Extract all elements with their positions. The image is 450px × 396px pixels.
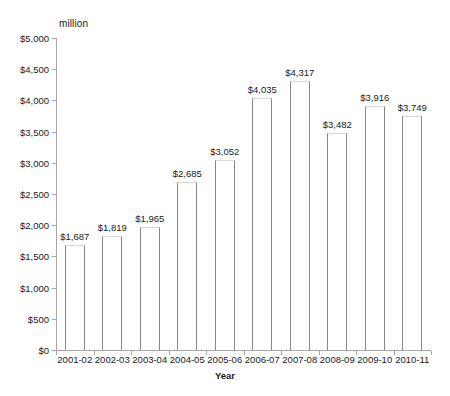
- bar-value-label: $3,482: [323, 119, 352, 130]
- bar-value-label: $1,819: [98, 222, 127, 233]
- bar-value-label: $1,687: [60, 231, 89, 242]
- y-axis-tick: [52, 69, 57, 70]
- x-axis-tick-label: 2008-09: [320, 354, 355, 365]
- y-axis-tick: [52, 288, 57, 289]
- x-axis-tick-label: 2010-11: [395, 354, 429, 365]
- bar-value-label: $3,749: [398, 102, 427, 113]
- y-axis-tick: [52, 100, 57, 101]
- x-axis-tick-label: 2003-04: [132, 354, 167, 365]
- y-axis-tick-label: $1,000: [3, 282, 49, 293]
- y-axis-tick: [52, 256, 57, 257]
- bar-chart: million $0$500$1,000$1,500$2,000$2,500$3…: [0, 0, 450, 396]
- x-axis-tick-label: 2001-02: [57, 354, 92, 365]
- unit-label: million: [59, 18, 88, 29]
- x-axis-title: Year: [0, 370, 450, 381]
- x-axis-tick-label: 2005-06: [207, 354, 242, 365]
- x-axis-tick: [431, 351, 432, 355]
- y-axis-tick-label: $500: [3, 313, 49, 324]
- x-axis-tick-label: 2007-08: [282, 354, 317, 365]
- y-axis-tick: [52, 194, 57, 195]
- bar: [290, 81, 310, 350]
- bar: [252, 98, 272, 350]
- bar: [140, 227, 160, 350]
- bar: [402, 116, 422, 350]
- y-axis-tick-label: $0: [3, 345, 49, 356]
- y-axis-tick-label: $4,500: [3, 64, 49, 75]
- y-axis-tick-label: $3,000: [3, 157, 49, 168]
- y-axis-tick-label: $5,000: [3, 33, 49, 44]
- y-axis-tick-label: $2,500: [3, 189, 49, 200]
- bar: [215, 160, 235, 350]
- bar: [177, 182, 197, 350]
- y-axis-tick-label: $2,000: [3, 220, 49, 231]
- y-axis-tick-label: $4,000: [3, 95, 49, 106]
- x-axis-tick-label: 2004-05: [170, 354, 205, 365]
- bar: [102, 236, 122, 350]
- bar-value-label: $4,317: [285, 67, 314, 78]
- bar-value-label: $1,965: [135, 213, 164, 224]
- x-axis-tick-label: 2002-03: [95, 354, 130, 365]
- y-axis-tick: [52, 163, 57, 164]
- y-axis-tick: [52, 225, 57, 226]
- bar: [65, 245, 85, 350]
- y-axis-tick: [52, 319, 57, 320]
- bar-value-label: $4,035: [248, 84, 277, 95]
- y-axis-tick: [52, 132, 57, 133]
- bar-value-label: $3,052: [210, 146, 239, 157]
- y-axis-tick: [52, 38, 57, 39]
- y-axis-tick-label: $3,500: [3, 126, 49, 137]
- bar-value-label: $2,685: [173, 168, 202, 179]
- y-axis-tick-label: $1,500: [3, 251, 49, 262]
- x-axis-tick-label: 2009-10: [357, 354, 392, 365]
- bar: [327, 133, 347, 350]
- bar-value-label: $3,916: [360, 92, 389, 103]
- x-axis-tick-label: 2006-07: [245, 354, 280, 365]
- bar: [365, 106, 385, 350]
